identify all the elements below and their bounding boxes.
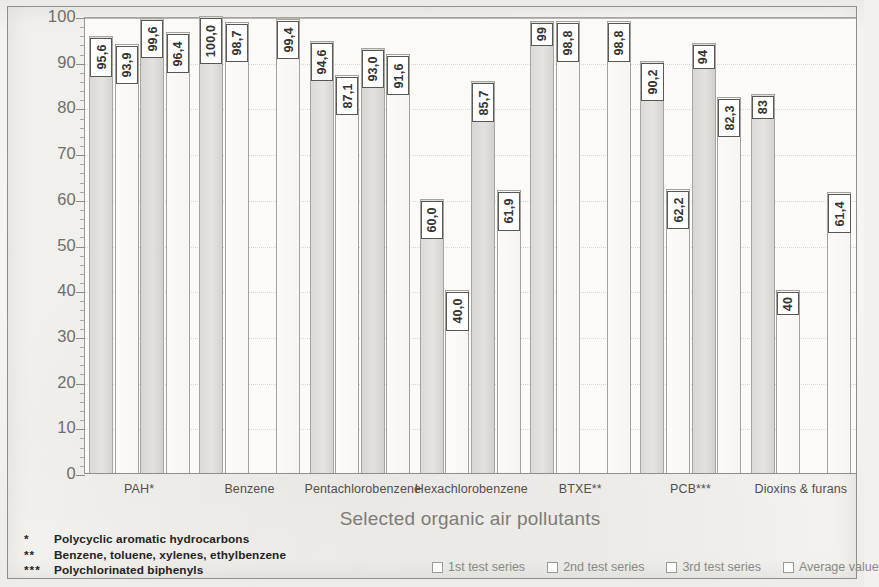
bar-value-label: 99,6: [141, 20, 163, 58]
footnote-row: **Benzene, toluene, xylenes, ethylbenzen…: [24, 548, 286, 564]
legend-item[interactable]: 1st test series: [432, 560, 525, 574]
y-axis-minor-tick: [80, 27, 85, 28]
y-axis-tick: [76, 475, 85, 476]
bar-value-label: 40: [777, 292, 799, 315]
legend-item[interactable]: Average value: [783, 560, 879, 574]
chart-legend: 1st test series2nd test series3rd test s…: [432, 560, 879, 574]
bar: 90,2: [640, 61, 664, 473]
bar-value-label: 40,0: [446, 292, 468, 330]
legend-item-label: 2nd test series: [563, 560, 644, 574]
bar-value-label: 60,0: [421, 201, 443, 239]
bar: 61,9: [497, 190, 521, 473]
bar: 95,6: [89, 36, 113, 473]
x-axis-category-label: Benzene: [194, 482, 304, 496]
bar: 94: [692, 43, 716, 473]
y-axis-tick-label: 90: [30, 53, 76, 72]
bar: 85,7: [471, 81, 495, 473]
y-axis-minor-tick: [80, 438, 85, 439]
y-axis-minor-tick: [80, 329, 85, 330]
y-axis-tick-label: 50: [30, 236, 76, 255]
y-axis-minor-tick: [80, 55, 85, 56]
x-axis-category-label: PAH*: [84, 482, 194, 496]
y-axis-tick: [76, 155, 85, 156]
y-axis-tick: [76, 64, 85, 65]
y-axis-tick-label: 30: [30, 327, 76, 346]
bar: 96,4: [166, 32, 190, 473]
y-axis-minor-tick: [80, 237, 85, 238]
bar-value-label: 87,1: [336, 77, 358, 115]
bar-value-label: 96,4: [167, 34, 189, 72]
y-axis-minor-tick: [80, 301, 85, 302]
bar: 100,0: [199, 16, 223, 473]
x-axis-title: Selected organic air pollutants: [84, 508, 856, 530]
y-axis-minor-tick: [80, 466, 85, 467]
bar-value-label: 61,4: [828, 194, 850, 232]
y-axis-tick: [76, 429, 85, 430]
plot-area: 95,693,999,696,4100,098,799,494,687,193,…: [84, 17, 856, 474]
bar-value-label: 100,0: [200, 18, 222, 64]
bar: 94,6: [310, 41, 334, 473]
y-axis-tick: [76, 109, 85, 110]
bar-value-label: 83: [752, 96, 774, 119]
y-axis-tick-label: 40: [30, 281, 76, 300]
y-axis-minor-tick: [80, 164, 85, 165]
y-axis-minor-tick: [80, 228, 85, 229]
legend-item[interactable]: 3rd test series: [666, 560, 761, 574]
bar: 61,4: [827, 192, 851, 473]
y-axis-tick-label: 80: [30, 98, 76, 117]
bar: 93,0: [361, 48, 385, 473]
bar: 99,6: [140, 18, 164, 473]
bar-value-label: 61,9: [498, 192, 520, 230]
y-axis-minor-tick: [80, 128, 85, 129]
y-axis-minor-tick: [80, 448, 85, 449]
bar: 40: [776, 290, 800, 473]
footnote-text: Polychlorinated biphenyls: [54, 563, 203, 579]
bar-value-label: 62,2: [667, 191, 689, 229]
y-axis-minor-tick: [80, 146, 85, 147]
y-axis-minor-tick: [80, 183, 85, 184]
y-axis-minor-tick: [80, 100, 85, 101]
bar-value-label: 93,9: [116, 46, 138, 84]
bar: 99,4: [276, 19, 300, 473]
legend-item-label: 3rd test series: [682, 560, 761, 574]
legend-swatch-icon: [783, 562, 794, 573]
y-axis-minor-tick: [80, 283, 85, 284]
y-axis-tick: [76, 247, 85, 248]
bar-value-label: 95,6: [90, 38, 112, 76]
x-axis-category-label: Pentachlorobenzene: [305, 482, 415, 496]
footnote-text: Polycyclic aromatic hydrocarbons: [54, 532, 249, 548]
footnote-text: Benzene, toluene, xylenes, ethylbenzene: [54, 548, 286, 564]
y-axis-tick: [76, 338, 85, 339]
y-axis-minor-tick: [80, 411, 85, 412]
y-axis-minor-tick: [80, 374, 85, 375]
bar: 98,8: [556, 21, 580, 473]
y-axis-tick: [76, 201, 85, 202]
bar: 98,8: [607, 21, 631, 473]
y-axis-tick-label: 10: [30, 418, 76, 437]
y-axis-minor-tick: [80, 320, 85, 321]
bar-value-label: 98,7: [226, 24, 248, 62]
footnote-marker: ***: [24, 563, 54, 579]
bar-value-label: 94: [693, 45, 715, 68]
bar-value-label: 85,7: [472, 83, 494, 121]
footnote-marker: **: [24, 548, 54, 564]
bar: 40,0: [445, 290, 469, 473]
y-axis-tick: [76, 384, 85, 385]
y-axis-minor-tick: [80, 402, 85, 403]
legend-swatch-icon: [666, 562, 677, 573]
y-axis-minor-tick: [80, 173, 85, 174]
bar: 60,0: [420, 199, 444, 473]
y-axis-minor-tick: [80, 256, 85, 257]
y-axis-minor-tick: [80, 310, 85, 311]
legend-swatch-icon: [547, 562, 558, 573]
bar: 83: [751, 94, 775, 473]
y-axis-tick: [76, 292, 85, 293]
bar: 98,7: [225, 22, 249, 473]
bar-value-label: 82,3: [718, 99, 740, 137]
y-axis-tick-label: 0: [30, 464, 76, 483]
y-axis-minor-tick: [80, 265, 85, 266]
y-axis-minor-tick: [80, 356, 85, 357]
footnote-marker: *: [24, 532, 54, 548]
legend-item[interactable]: 2nd test series: [547, 560, 644, 574]
